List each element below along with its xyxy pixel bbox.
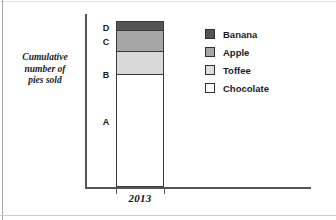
legend-label-toffee: Toffee	[223, 65, 251, 76]
y-axis-title: Cumulative number of pies sold	[8, 52, 82, 87]
bar-segment-banana	[117, 22, 163, 31]
legend-swatch-banana-icon	[205, 29, 215, 39]
chart-legend: Banana Apple Toffee Chocolate	[205, 26, 269, 98]
legend-swatch-apple-icon	[205, 47, 215, 57]
page-top-edge	[0, 1, 336, 2]
chart-page: Cumulative number of pies sold D C B A 2…	[0, 0, 336, 220]
x-axis-category-label: 2013	[116, 192, 164, 204]
y-axis-line	[85, 14, 87, 189]
page-bottom-edge	[0, 215, 336, 216]
segment-label-d: D	[99, 23, 113, 33]
legend-label-banana: Banana	[223, 29, 257, 40]
segment-label-a: A	[99, 117, 113, 127]
stacked-bar-2013	[116, 21, 164, 187]
legend-item-banana: Banana	[205, 26, 269, 42]
segment-label-c: C	[99, 37, 113, 47]
x-axis-line	[85, 187, 311, 189]
legend-swatch-chocolate-icon	[205, 83, 215, 93]
legend-item-chocolate: Chocolate	[205, 80, 269, 96]
segment-label-b: B	[99, 70, 113, 80]
y-axis-title-line-1: Cumulative	[8, 52, 82, 64]
legend-label-chocolate: Chocolate	[223, 83, 269, 94]
legend-swatch-toffee-icon	[205, 65, 215, 75]
bar-segment-toffee	[117, 52, 163, 75]
x-axis-tick-right	[164, 189, 165, 194]
bar-segment-apple	[117, 31, 163, 53]
bar-segment-chocolate	[117, 75, 163, 186]
legend-item-apple: Apple	[205, 44, 269, 60]
y-axis-title-line-2: number of	[8, 64, 82, 76]
legend-item-toffee: Toffee	[205, 62, 269, 78]
page-left-edge	[2, 0, 3, 220]
legend-label-apple: Apple	[223, 47, 249, 58]
y-axis-title-line-3: pies sold	[8, 75, 82, 87]
